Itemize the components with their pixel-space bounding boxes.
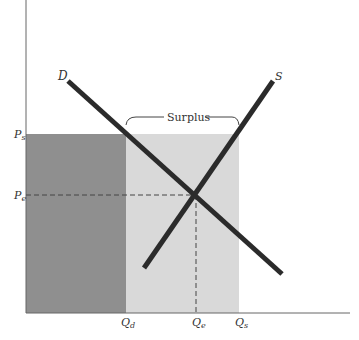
- consumer-spending-region: [26, 134, 126, 313]
- qs-label: Qs: [235, 316, 248, 330]
- supply-demand-diagram: D S Surplus Ps Pe Qd Qe Qs: [0, 0, 359, 340]
- surplus-region: [126, 134, 239, 313]
- supply-label: S: [275, 70, 283, 83]
- qe-label: Qe: [192, 316, 206, 330]
- qd-label: Qd: [121, 316, 135, 330]
- demand-label: D: [57, 69, 68, 83]
- pe-label: Pe: [13, 189, 26, 203]
- surplus-label: Surplus: [167, 111, 211, 124]
- ps-label: Ps: [13, 128, 26, 142]
